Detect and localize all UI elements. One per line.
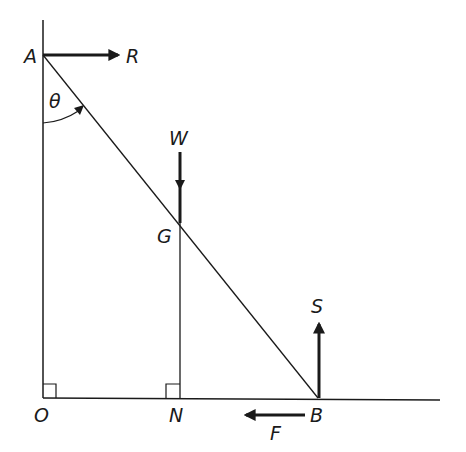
label-b: B: [310, 404, 323, 426]
label-w: W: [169, 127, 189, 149]
label-a: A: [22, 45, 37, 67]
label-o: O: [34, 404, 49, 426]
label-theta: θ: [49, 90, 61, 112]
label-n: N: [169, 404, 183, 426]
force-w-arrowhead-icon: [175, 180, 185, 190]
label-g: G: [157, 225, 172, 247]
label-r: R: [126, 45, 139, 67]
label-s: S: [311, 295, 323, 317]
floor-line: [43, 398, 440, 400]
label-f: F: [270, 422, 282, 444]
right-angle-marker-o: [43, 384, 56, 398]
ladder-diagram: A R θ W G S O N B F: [0, 0, 466, 452]
right-angle-marker-n: [166, 384, 180, 398]
